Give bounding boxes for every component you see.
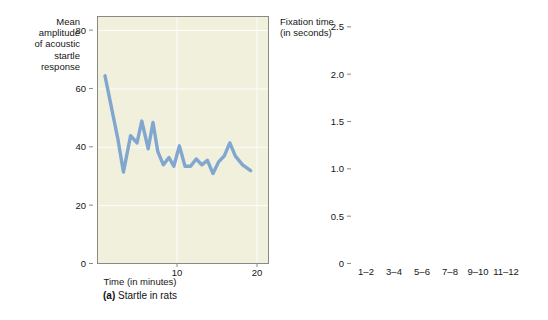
x-tick-label: 9–10 bbox=[467, 266, 488, 277]
y-tick-label: 0 bbox=[339, 258, 344, 269]
line-chart-startle bbox=[97, 16, 269, 264]
x-tick-label: 11–12 bbox=[493, 266, 519, 277]
y-ticks-b: 00.51.01.52.02.5 bbox=[316, 10, 352, 270]
plot-background bbox=[97, 16, 269, 264]
caption-a: (a) Startle in rats bbox=[40, 290, 240, 301]
caption-a-prefix: (a) bbox=[103, 290, 115, 301]
y-tick-label: 40 bbox=[75, 141, 86, 152]
y-tick-label: 0 bbox=[81, 258, 86, 269]
caption-a-text: Startle in rats bbox=[115, 290, 177, 301]
x-axis-title-a: Time (in minutes) bbox=[60, 276, 220, 287]
x-ticks-b: 1–23–45–67–89–1011–12 bbox=[352, 264, 538, 282]
y-tick-label: 80 bbox=[75, 25, 86, 36]
x-tick-label: 7–8 bbox=[442, 266, 458, 277]
y-tick-label: 60 bbox=[75, 83, 86, 94]
figure-container: Mean amplitude of acoustic startle respo… bbox=[0, 0, 548, 320]
plot-area-a bbox=[97, 16, 269, 264]
y-tick-label: 1.0 bbox=[331, 163, 344, 174]
panel-orienting-response: Fixation time (in seconds) 00.51.01.52.0… bbox=[274, 0, 548, 320]
y-tick-label: 0.5 bbox=[331, 211, 344, 222]
y-ticks-a: 020406080 bbox=[60, 10, 94, 270]
x-tick-label: 20 bbox=[252, 267, 263, 278]
x-tick-label: 3–4 bbox=[386, 266, 402, 277]
y-tick-label: 20 bbox=[75, 200, 86, 211]
y-tick-label: 2.5 bbox=[331, 21, 344, 32]
y-tick-label: 1.5 bbox=[331, 116, 344, 127]
panel-startle-in-rats: Mean amplitude of acoustic startle respo… bbox=[0, 0, 274, 320]
x-tick-label: 1–2 bbox=[358, 266, 374, 277]
x-tick-label: 5–6 bbox=[414, 266, 430, 277]
y-tick-label: 2.0 bbox=[331, 69, 344, 80]
